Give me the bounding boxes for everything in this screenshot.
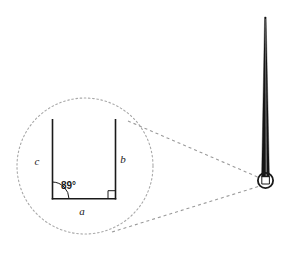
side-b-label: b xyxy=(120,153,126,165)
needle-shape xyxy=(258,17,273,188)
side-c-label: c xyxy=(35,155,40,167)
right-angle-marker-icon xyxy=(108,191,116,199)
magnifier-cone xyxy=(112,121,260,232)
diagram-canvas: c b a 89° xyxy=(0,0,284,256)
needle-base-square xyxy=(262,176,270,184)
needle-magnifier-figure: c b a 89° xyxy=(0,0,284,256)
angle-label: 89° xyxy=(61,180,76,191)
cone-line-lower xyxy=(112,186,260,232)
side-a-label: a xyxy=(79,205,85,217)
cone-line-upper xyxy=(128,121,260,178)
